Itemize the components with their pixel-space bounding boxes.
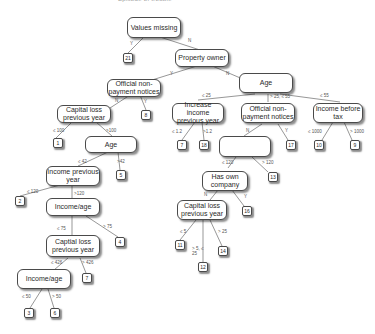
node-capital-loss-previous-year-1: Capital loss previous year: [57, 105, 111, 123]
edge-label-onp1-n: N: [115, 98, 118, 103]
leaf-7: 7: [177, 140, 187, 150]
edge-label-age1-le: ≤ 25: [202, 93, 211, 98]
edge-label-age1-gt: ≤ 55: [320, 93, 329, 98]
leaf-4: 4: [115, 237, 125, 247]
edge-label-ia1-gt: > 75: [103, 224, 112, 229]
node-age-2: Age: [85, 136, 137, 153]
leaf-13: 13: [268, 172, 278, 182]
edge-label-ibt-le: ≤ 1000: [308, 129, 322, 134]
node-capital-loss-previous-year-3: Captial loss previous year: [46, 235, 100, 257]
edge-label-onp2-n: N: [246, 128, 249, 133]
node-property-owner: Property owner: [175, 49, 229, 67]
node-income-previous-year-1: Income previous year: [46, 166, 100, 186]
edge-label-ia2-le: ≤ 50: [22, 294, 31, 299]
edge-label-cl3-gt: > 426: [82, 260, 93, 265]
node-age-1: Age: [239, 73, 293, 93]
edge-label-onp1-y: Y: [144, 99, 147, 104]
edge-label-ip1-le: ≤ 120: [27, 189, 38, 194]
leaf-9: 9: [350, 140, 360, 150]
leaf-5: 5: [116, 170, 126, 180]
node-income-previous-year-2: [219, 136, 271, 157]
edge-label-age1-mid: > 25, ≤ 55: [270, 94, 290, 99]
edge-label-age2-le: ≤ 42: [78, 159, 87, 164]
node-has-own-company: Has own company: [202, 171, 248, 191]
edge-label-ia1-le: ≤ 75: [57, 226, 66, 231]
node-income-before-tax: Income before tax: [313, 103, 363, 123]
node-values-missing: Values missing: [127, 17, 181, 38]
leaf-8: 8: [141, 110, 151, 120]
edge-label-ip2-gt: > 120: [262, 160, 273, 165]
leaf-16: 16: [242, 206, 252, 216]
edge-label-cl2-mid: > 5, ≤ 25: [192, 246, 204, 256]
edge-label-ip1-gt: >120: [74, 191, 84, 196]
leaf-17: 17: [286, 140, 296, 150]
edge-label-ia2-gt: > 50: [52, 294, 61, 299]
edge-label-onp2-y: Y: [285, 128, 288, 133]
leaf-11: 11: [175, 240, 185, 250]
edge-label-ibt-gt: > 1000: [350, 129, 364, 134]
node-official-nonpayment-notices-2: Official non-payment notices: [241, 103, 295, 123]
node-capital-loss-previous-year-2: Capital loss previous year: [177, 200, 227, 220]
edge-label-property-owner-n: N: [226, 71, 229, 76]
leaf-6: 6: [50, 308, 60, 318]
node-official-nonpayment-notices-1: Official non-payment notices: [107, 79, 161, 97]
leaf-2: 2: [15, 196, 25, 206]
node-income-age-2: Income/age: [17, 269, 71, 289]
edge-label-property-owner-y: Y: [170, 71, 173, 76]
edge-label-cl3-le: ≤ 426: [51, 260, 62, 265]
edge-label-hoc-n: N: [204, 192, 207, 197]
edge-label-values-missing-y: Y: [130, 41, 133, 46]
leaf-12: 12: [198, 262, 208, 272]
leaf-1: 1: [53, 138, 63, 148]
leaf-3: 3: [24, 308, 34, 318]
decision-tree-diagram: Episode of trouble: [0, 0, 375, 334]
edge-label-cl2-le: ≤ 5: [180, 229, 186, 234]
leaf-21: 21: [123, 53, 133, 63]
node-income-age-1: Income/age: [46, 198, 100, 216]
edge-label-cl1-le: ≤ 100: [53, 128, 64, 133]
leaf-10: 10: [314, 140, 324, 150]
leaf-14: 14: [218, 246, 228, 256]
edge-label-cl2-gt: > 25: [218, 229, 227, 234]
edge-label-hoc-y: Y: [244, 194, 247, 199]
leaf-18: 18: [199, 140, 209, 150]
edge-label-age2-gt: >42: [117, 159, 125, 164]
edge-label-values-missing-n: N: [188, 38, 191, 43]
edge-label-ii-gt: >1.2: [203, 129, 212, 134]
node-increase-income-previous-year: Increase income previous year: [172, 103, 224, 123]
edge-label-ip2-le: ≤ 120: [222, 160, 233, 165]
edge-label-ii-le: ≤ 1.2: [172, 129, 182, 134]
leaf-7b: 7: [82, 273, 92, 283]
edge-label-cl1-gt: >100: [106, 128, 116, 133]
